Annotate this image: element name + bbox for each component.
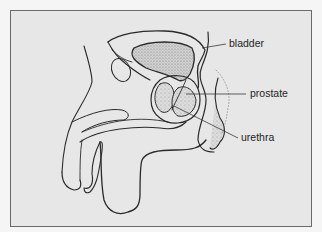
prostate-lobe-left bbox=[155, 83, 174, 113]
label-bladder: bladder bbox=[229, 38, 264, 49]
rectum-outer bbox=[210, 78, 225, 149]
glans bbox=[62, 172, 81, 190]
bladder-leader bbox=[202, 44, 226, 48]
penis-inner bbox=[80, 140, 82, 180]
label-urethra: urethra bbox=[241, 132, 274, 143]
anatomy-illustration bbox=[0, 0, 322, 232]
label-prostate: prostate bbox=[250, 88, 288, 99]
diagram-canvas: bladder prostate urethra bbox=[0, 0, 322, 232]
scrotum bbox=[100, 140, 206, 214]
pubic-outline bbox=[62, 46, 92, 172]
foreskin bbox=[84, 142, 102, 193]
